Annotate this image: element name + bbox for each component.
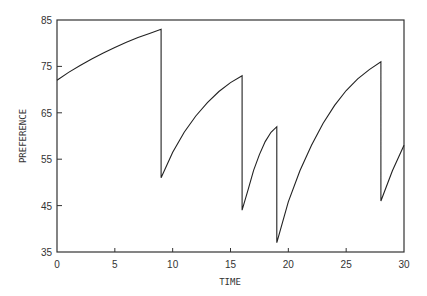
y-tick-label: 35 (41, 247, 53, 258)
preference-line (57, 29, 404, 242)
x-tick-label: 30 (398, 259, 410, 270)
preference-chart: 354555657585 051015202530 TIME PREFERENC… (0, 0, 427, 296)
y-axis-ticks: 354555657585 (41, 15, 62, 258)
y-tick-label: 85 (41, 15, 53, 26)
x-tick-label: 0 (54, 259, 60, 270)
x-tick-label: 5 (112, 259, 118, 270)
y-axis-label: PREFERENCE (18, 109, 28, 163)
y-tick-label: 45 (41, 201, 53, 212)
x-tick-label: 10 (167, 259, 179, 270)
x-axis-label: TIME (219, 277, 241, 287)
x-tick-label: 20 (283, 259, 295, 270)
y-tick-label: 75 (41, 61, 53, 72)
y-tick-label: 55 (41, 154, 53, 165)
plot-frame (57, 20, 404, 252)
x-tick-label: 15 (225, 259, 237, 270)
y-tick-label: 65 (41, 108, 53, 119)
x-tick-label: 25 (341, 259, 353, 270)
x-axis-ticks: 051015202530 (54, 248, 410, 270)
